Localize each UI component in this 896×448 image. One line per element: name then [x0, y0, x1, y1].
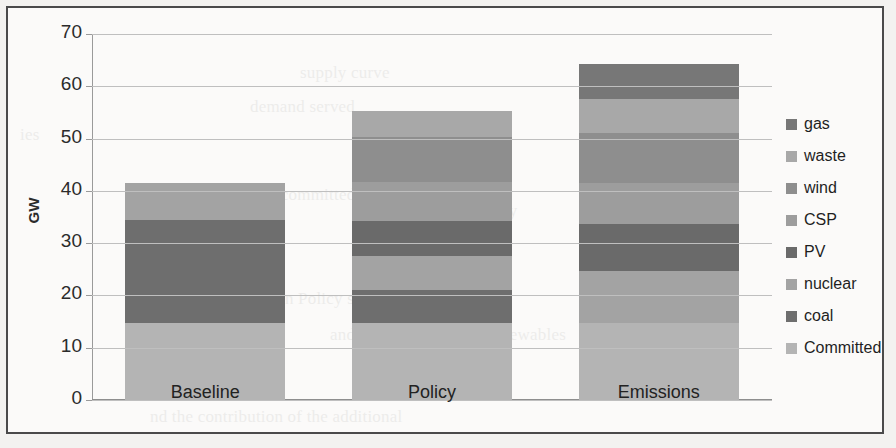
chart-legend: gaswastewindCSPPVnuclearcoalCommitted: [786, 108, 896, 364]
y-axis-tick-mark: [86, 139, 92, 140]
y-axis-tick-labels: 010203040506070: [36, 8, 82, 432]
y-axis-tick-mark: [86, 400, 92, 401]
bar-segment-baseline-nuclear[interactable]: [125, 183, 285, 220]
y-axis-tick-mark: [86, 348, 92, 349]
bar-segment-emissions-pv[interactable]: [579, 224, 739, 271]
gridline: [92, 139, 772, 140]
bar-segment-policy-csp[interactable]: [352, 182, 512, 221]
legend-item-pv[interactable]: PV: [786, 236, 896, 268]
bar-stack-baseline[interactable]: [125, 34, 285, 400]
legend-swatch-icon: [786, 279, 797, 290]
legend-item-committed[interactable]: Committed: [786, 332, 896, 364]
figure-frame: GW 010203040506070 BaselinePolicyEmissio…: [6, 6, 884, 434]
legend-item-gas[interactable]: gas: [786, 108, 896, 140]
gridline: [92, 348, 772, 349]
bar-segment-policy-waste[interactable]: [352, 111, 512, 137]
bar-segment-baseline-coal[interactable]: [125, 220, 285, 322]
bar-segment-policy-nuclear[interactable]: [352, 256, 512, 291]
y-axis-tick-label: 70: [36, 21, 82, 43]
bar-segment-emissions-wind[interactable]: [579, 133, 739, 183]
y-axis-tick-label: 40: [36, 178, 82, 200]
plot-area: [92, 34, 772, 400]
bar-segment-policy-wind[interactable]: [352, 137, 512, 182]
bar-stack-emissions[interactable]: [579, 34, 739, 400]
y-axis-tick-label: 30: [36, 230, 82, 252]
legend-item-coal[interactable]: coal: [786, 300, 896, 332]
gridline: [92, 295, 772, 296]
gridline: [92, 191, 772, 192]
gridline: [92, 86, 772, 87]
legend-swatch-icon: [786, 311, 797, 322]
legend-swatch-icon: [786, 343, 797, 354]
x-axis-label-emissions: Emissions: [579, 382, 739, 403]
y-axis-tick-mark: [86, 191, 92, 192]
y-axis-tick-label: 10: [36, 335, 82, 357]
bar-segment-emissions-csp[interactable]: [579, 183, 739, 224]
legend-item-label: wind: [804, 179, 837, 197]
y-axis-tick-mark: [86, 243, 92, 244]
legend-item-nuclear[interactable]: nuclear: [786, 268, 896, 300]
legend-item-label: gas: [804, 115, 830, 133]
bar-segment-policy-pv[interactable]: [352, 221, 512, 256]
legend-item-wind[interactable]: wind: [786, 172, 896, 204]
gridline: [92, 34, 772, 35]
gridline: [92, 243, 772, 244]
legend-item-label: waste: [804, 147, 846, 165]
legend-item-label: nuclear: [804, 275, 856, 293]
legend-item-label: Committed: [804, 339, 881, 357]
bars-layer: [92, 34, 772, 400]
legend-item-csp[interactable]: CSP: [786, 204, 896, 236]
x-axis-label-baseline: Baseline: [125, 382, 285, 403]
legend-item-label: CSP: [804, 211, 837, 229]
y-axis-tick-mark: [86, 34, 92, 35]
bar-segment-emissions-waste[interactable]: [579, 99, 739, 132]
legend-item-label: PV: [804, 243, 825, 261]
y-axis-tick-label: 60: [36, 73, 82, 95]
legend-item-label: coal: [804, 307, 833, 325]
y-axis-tick-mark: [86, 86, 92, 87]
legend-swatch-icon: [786, 151, 797, 162]
bar-segment-emissions-gas[interactable]: [579, 64, 739, 100]
x-axis-label-policy: Policy: [352, 382, 512, 403]
legend-swatch-icon: [786, 215, 797, 226]
legend-swatch-icon: [786, 183, 797, 194]
bar-segment-emissions-nuclear[interactable]: [579, 271, 739, 323]
y-axis-tick-label: 0: [36, 387, 82, 409]
legend-swatch-icon: [786, 247, 797, 258]
legend-swatch-icon: [786, 119, 797, 130]
y-axis-tick-label: 50: [36, 126, 82, 148]
stacked-bar-chart: GW 010203040506070 BaselinePolicyEmissio…: [8, 8, 882, 432]
y-axis-tick-label: 20: [36, 282, 82, 304]
legend-item-waste[interactable]: waste: [786, 140, 896, 172]
y-axis-tick-mark: [86, 295, 92, 296]
bar-stack-policy[interactable]: [352, 34, 512, 400]
